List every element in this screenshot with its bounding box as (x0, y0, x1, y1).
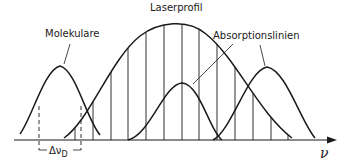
doppler-width-label: ΔνD (49, 145, 68, 159)
laser-absorption-diagram: ν ΔνD Laserprofil Molekulare Absorptions… (0, 0, 344, 164)
axis-arrow-icon (327, 137, 337, 144)
molecular-line-curve (20, 66, 100, 135)
molecular-label: Molekulare (45, 28, 99, 39)
absorption-line-right-curve (213, 67, 315, 140)
laser-mode-lines (75, 0, 288, 140)
absorption-leader-right (260, 45, 265, 66)
absorption-lines-label: Absorptionslinien (213, 30, 300, 41)
laser-profile-label: Laserprofil (150, 2, 203, 13)
absorption-line-center-curve (128, 83, 222, 140)
axis-label-nu: ν (320, 145, 329, 161)
molecular-leader-line (64, 44, 70, 64)
